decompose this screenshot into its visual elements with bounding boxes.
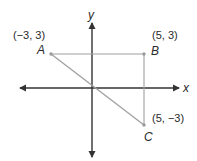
vertex-b-point — [142, 52, 145, 55]
vertex-a-coords: (−3, 3) — [13, 30, 45, 41]
y-axis-label: y — [88, 9, 94, 21]
vertex-c-point — [142, 123, 145, 126]
vertex-c-label: C — [144, 131, 153, 143]
x-axis-label: x — [183, 82, 189, 94]
triangle-abc — [51, 54, 144, 125]
segment-ac — [51, 54, 144, 125]
vertex-a-point — [49, 52, 52, 55]
vertex-b-label: B — [151, 45, 159, 57]
vertex-b-coords: (5, 3) — [152, 30, 178, 41]
vertex-c-coords: (5, −3) — [152, 113, 184, 124]
coordinate-plane — [0, 0, 197, 161]
vertex-a-label: A — [37, 44, 45, 56]
